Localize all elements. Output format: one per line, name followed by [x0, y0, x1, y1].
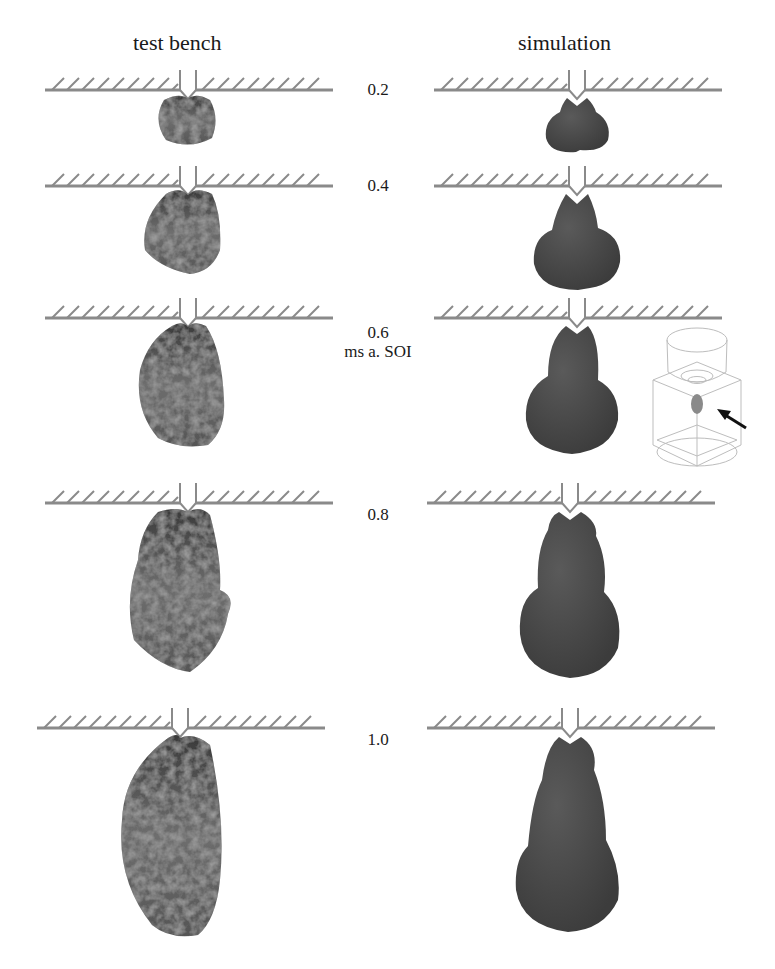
simulation-row-0.2 [434, 70, 722, 152]
test-bench-row-0.6 [45, 298, 333, 446]
simulation-row-1.0 [427, 708, 715, 932]
simulation-row-0.8 [427, 483, 715, 678]
figure-canvas [0, 0, 775, 969]
test-bench-row-0.2 [45, 70, 333, 145]
test-bench-row-0.8 [45, 483, 333, 672]
test-bench-row-0.4 [45, 166, 333, 274]
test-bench-row-1.0 [37, 708, 325, 936]
simulation-row-0.4 [434, 166, 722, 290]
pointer-arrow-icon [717, 409, 746, 428]
simulation-row-0.6 [434, 298, 722, 454]
inset-spray-plume [691, 394, 703, 414]
